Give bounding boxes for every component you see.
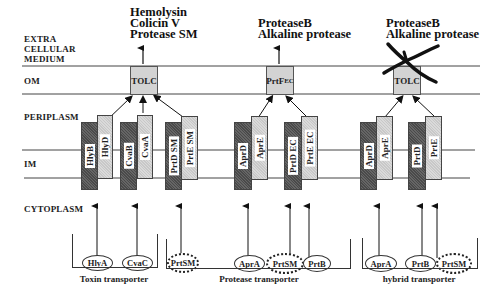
prte-label: PrtE: [429, 137, 439, 160]
apre-protein: AprE: [251, 116, 268, 180]
prtd-label: PrtD: [412, 145, 422, 168]
prte-ec-label: PrtE EC: [305, 129, 315, 166]
prtd-ec-protein: PrtD EC: [284, 122, 302, 190]
cvaa-label: CvaA: [140, 134, 150, 160]
aprd-protein-hybrid: AprD: [360, 122, 377, 190]
prtd-protein-hybrid: PrtD: [408, 122, 426, 190]
aprd-protein: AprD: [234, 122, 252, 190]
cvaa-protein: CvaA: [137, 115, 153, 179]
prtd-sm-label: PrtD SM: [169, 137, 179, 176]
bracket-hybrid: [362, 238, 478, 269]
apre-label: AprE: [255, 135, 265, 161]
prte-sm-protein: PrtE SM: [181, 116, 198, 180]
apre-protein-hybrid: AprE: [376, 116, 393, 180]
apre-label: AprE: [380, 135, 390, 161]
hlyd-label: HlyD: [100, 135, 110, 160]
prtd-sm-protein: PrtD SM: [165, 122, 182, 190]
prte-protein-hybrid: PrtE: [425, 116, 442, 180]
cvab-protein: CvaB: [120, 122, 137, 190]
prtd-ec-label: PrtD EC: [288, 137, 298, 175]
aprd-label: AprD: [364, 143, 374, 169]
prte-sm-label: PrtE SM: [185, 129, 195, 167]
hlyd-protein: HlyD: [97, 115, 113, 179]
bracket-protease: [166, 239, 351, 269]
toxin-transporter-label: Toxin transporter: [80, 274, 148, 284]
protease-transporter-label: Protease transporter: [219, 274, 299, 284]
aprd-label: AprD: [238, 143, 248, 169]
hlyb-label: HlyB: [85, 144, 95, 168]
hybrid-transporter-label: hybrid transporter: [383, 274, 456, 284]
type1-secretion-diagram: EXTRA CELLULAR MEDIUM OM PERIPLASM IM CY…: [0, 0, 498, 291]
bracket-toxin: [72, 234, 158, 268]
prte-ec-protein: PrtE EC: [301, 116, 318, 180]
cvab-label: CvaB: [124, 143, 134, 169]
hlyb-protein: HlyB: [81, 122, 98, 190]
